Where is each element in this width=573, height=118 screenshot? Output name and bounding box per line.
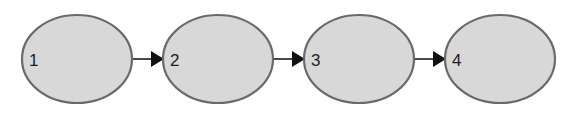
node-ellipse	[163, 15, 273, 103]
flow-node-3: 3	[304, 15, 414, 103]
node-label: 3	[311, 51, 320, 70]
flow-node-4: 4	[445, 15, 555, 103]
node-ellipse	[304, 15, 414, 103]
flow-node-2: 2	[163, 15, 273, 103]
node-label: 1	[29, 51, 38, 70]
node-ellipse	[445, 15, 555, 103]
node-label: 4	[452, 51, 461, 70]
flow-diagram: 1234	[0, 0, 573, 118]
flow-node-1: 1	[22, 15, 132, 103]
node-ellipse	[22, 15, 132, 103]
node-label: 2	[170, 51, 179, 70]
edge-arrow	[132, 51, 164, 67]
edge-arrow	[273, 51, 305, 67]
edge-arrow	[414, 51, 446, 67]
